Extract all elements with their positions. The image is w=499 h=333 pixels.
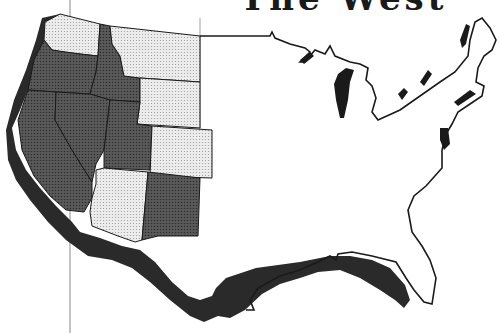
long-island [454, 90, 476, 106]
state-colorado [150, 126, 212, 178]
lake-erie [398, 88, 408, 100]
state-wyoming [137, 78, 200, 128]
state-montana [110, 26, 200, 82]
maine-coast [460, 24, 470, 48]
state-arizona [90, 168, 148, 242]
lake-michigan [334, 68, 354, 118]
state-new-mexico [142, 172, 200, 240]
us-map [0, 0, 499, 333]
lake-ontario [420, 70, 432, 86]
